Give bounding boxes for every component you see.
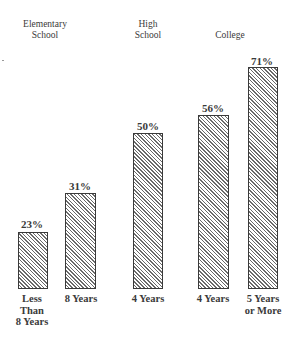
group-label-elementary-school: Elementary School <box>12 19 78 41</box>
bar-less-than-8-years <box>18 232 48 289</box>
value-label-high-school-4-years: 50% <box>130 120 166 132</box>
bar-elementary-8-years <box>65 193 96 289</box>
group-label-high-school: High School <box>124 19 172 41</box>
category-label-less-than-8-years: Less Than 8 Years <box>8 293 56 328</box>
stray-mark <box>2 60 4 61</box>
bar-college-4-years <box>198 115 229 289</box>
category-label-elementary-8-years: 8 Years <box>56 293 106 305</box>
group-label-college: College <box>206 30 254 41</box>
category-label-college-5-years-or-more: 5 Years or More <box>236 293 290 316</box>
category-label-high-school-4-years: 4 Years <box>123 293 173 305</box>
value-label-college-4-years: 56% <box>195 102 231 114</box>
category-label-college-4-years: 4 Years <box>188 293 238 305</box>
value-label-elementary-8-years: 31% <box>62 180 98 192</box>
bar-college-5-years-or-more <box>248 67 278 289</box>
bar-high-school-4-years <box>133 133 163 289</box>
value-label-less-than-8-years: 23% <box>14 218 50 230</box>
value-label-college-5-years-or-more: 71% <box>244 55 280 67</box>
